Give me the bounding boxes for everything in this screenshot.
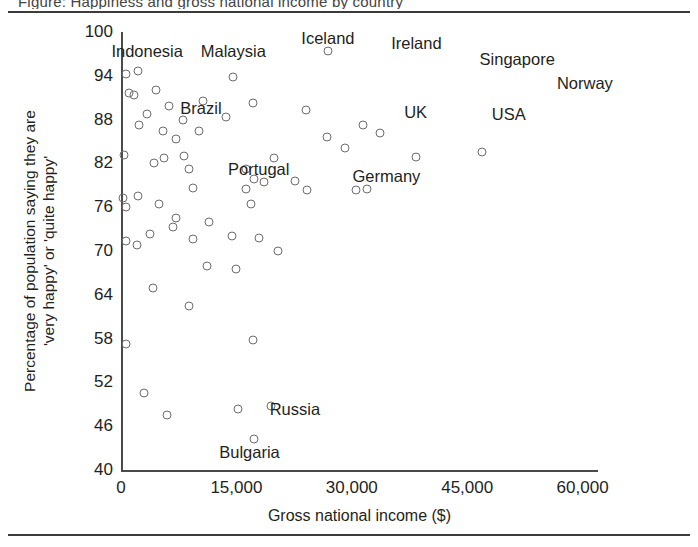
data-point [248,98,257,107]
data-point [242,184,251,193]
data-point [231,265,240,274]
country-label-bulgaria: Bulgaria [219,442,280,461]
y-tick-label: 94 [69,66,113,86]
data-point [247,200,256,209]
data-point [171,135,180,144]
scatter-plot: 40465258647076828894100 015,00030,00045,… [0,0,698,547]
data-point [233,404,242,413]
data-point [163,410,172,419]
data-point [121,236,130,245]
data-point [122,203,131,212]
y-tick-label: 64 [69,285,113,305]
data-point [133,241,142,250]
figure-container: Figure: Happiness and gross national inc… [0,0,698,547]
x-tick-label: 0 [116,478,125,498]
y-tick-label: 82 [69,153,113,173]
data-point [121,339,130,348]
country-label-russia: Russia [270,399,320,418]
x-tick-label: 45,000 [441,478,493,498]
data-point [164,102,173,111]
y-axis-title-line-2: 'very happy' or 'quite happy' [40,31,58,471]
data-point [412,152,421,161]
data-point [204,217,213,226]
country-label-iceland: Iceland [301,28,354,47]
x-tick-label: 15,000 [210,478,262,498]
data-point [303,186,312,195]
y-axis-title-line-1: Percentage of population saying they are [20,31,39,471]
data-point [149,283,158,292]
data-point [130,90,139,99]
data-point [189,235,198,244]
country-label-singapore: Singapore [480,50,555,69]
data-point [229,72,238,81]
data-point [203,261,212,270]
data-point [477,148,486,157]
data-point [133,192,142,201]
data-point [119,193,128,202]
country-label-germany: Germany [352,166,420,185]
data-point [146,230,155,239]
data-point [180,152,189,161]
data-point [358,120,367,129]
country-label-brazil: Brazil [180,98,221,117]
y-tick-label: 88 [69,110,113,130]
country-label-portugal: Portugal [228,160,289,179]
data-point [188,184,197,193]
data-point [302,106,311,115]
data-point [290,176,299,185]
data-point [168,222,177,231]
data-point [352,186,361,195]
data-point [159,127,168,136]
data-point [323,46,332,55]
data-point [143,109,152,118]
x-tick-label: 30,000 [326,478,378,498]
data-point [195,126,204,135]
data-point [155,200,164,209]
data-point [160,154,169,163]
y-tick-label: 52 [69,372,113,392]
data-point [254,233,263,242]
data-point [134,121,143,130]
data-point [121,69,130,78]
x-axis-line [121,470,598,472]
y-tick-label: 70 [69,241,113,261]
data-point [273,247,282,256]
y-tick-label: 58 [69,329,113,349]
data-point [363,184,372,193]
y-tick-label: 76 [69,197,113,217]
data-point [133,67,142,76]
y-axis-line [121,32,123,471]
data-point [375,129,384,138]
y-axis-title-second-line: 'very happy' or 'quite happy' [40,31,66,471]
x-tick-label: 60,000 [557,478,609,498]
data-point [172,214,181,223]
data-point [150,159,159,168]
country-label-usa: USA [492,105,526,124]
country-label-malaysia: Malaysia [201,41,266,60]
data-point [249,336,258,345]
data-point [140,388,149,397]
data-point [227,232,236,241]
country-label-uk: UK [404,103,427,122]
y-tick-label: 100 [69,22,113,42]
country-label-ireland: Ireland [391,33,441,52]
data-point [222,112,231,121]
data-point [152,85,161,94]
data-point [323,133,332,142]
data-point [120,150,129,159]
y-tick-label: 40 [69,460,113,480]
y-tick-label: 46 [69,416,113,436]
data-point [184,164,193,173]
x-axis-title: Gross national income ($) [121,507,598,525]
country-label-norway: Norway [557,74,613,93]
country-label-indonesia: Indonesia [111,41,183,60]
data-point [340,144,349,153]
data-point [185,301,194,310]
